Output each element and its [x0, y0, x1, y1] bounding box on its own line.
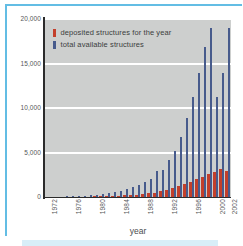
x-axis-title: year — [45, 226, 231, 236]
legend-label-deposited: deposited structures for the year — [61, 28, 172, 37]
bar-total-available — [210, 28, 212, 197]
bar-total-available — [138, 185, 140, 197]
bar-total-available — [174, 151, 176, 197]
bar-total-available — [222, 73, 224, 197]
bar-total-available — [168, 160, 170, 197]
bar-deposited-this-year — [165, 190, 167, 197]
chart-legend: deposited structures for the year total … — [53, 27, 203, 51]
y-axis-tick-label: 15,000 — [1, 60, 41, 67]
bar-deposited-this-year — [219, 169, 221, 197]
x-axis-tick-label: 2002 — [231, 199, 238, 214]
bar-deposited-this-year — [225, 171, 227, 197]
bar-total-available — [132, 187, 134, 197]
bar-total-available — [180, 137, 182, 197]
x-axis-tick-label: 1972 — [51, 199, 58, 214]
x-axis-tick-labels: 197219761980198419881992199620002002 — [45, 199, 231, 229]
x-axis-tick-label: 1992 — [171, 199, 178, 214]
bar-group — [225, 19, 231, 197]
bar-total-available — [186, 118, 188, 197]
x-axis-tick-label: 1996 — [195, 199, 202, 214]
bar-total-available — [198, 73, 200, 197]
bar-deposited-this-year — [195, 179, 197, 197]
x-axis-tick-label: 1988 — [147, 199, 154, 214]
x-axis-tick-label: 1984 — [123, 199, 130, 214]
bar-deposited-this-year — [201, 177, 203, 197]
bar-total-available — [228, 28, 230, 197]
bar-deposited-this-year — [171, 188, 173, 197]
bar-total-available — [204, 47, 206, 197]
y-axis-tick-label: 20,000 — [1, 15, 41, 22]
bar-deposited-this-year — [189, 182, 191, 197]
bar-deposited-this-year — [207, 174, 209, 197]
bar-deposited-this-year — [183, 184, 185, 197]
x-axis-tick-label: 2000 — [219, 199, 226, 214]
bar-total-available — [126, 189, 128, 197]
bar-deposited-this-year — [177, 186, 179, 197]
bar-total-available — [192, 97, 194, 197]
x-axis-tick-label: 1980 — [99, 199, 106, 214]
figure-frame: 05,00010,00015,00020,000 197219761980198… — [0, 0, 243, 246]
legend-item-deposited: deposited structures for the year — [53, 27, 203, 38]
bar-deposited-this-year — [213, 172, 215, 197]
y-axis-tick-labels: 05,00010,00015,00020,000 — [0, 0, 41, 246]
legend-item-total: total available structures — [53, 39, 203, 50]
x-axis-line — [43, 197, 231, 198]
y-axis-tick-label: 0 — [1, 193, 41, 200]
y-axis-tick-label: 5,000 — [1, 149, 41, 156]
y-axis-line — [43, 17, 45, 199]
bar-total-available — [150, 179, 152, 197]
legend-label-total: total available structures — [61, 40, 144, 49]
legend-swatch-total-icon — [53, 41, 56, 49]
bar-total-available — [156, 171, 158, 197]
bar-chart: 05,00010,00015,00020,000 197219761980198… — [0, 0, 243, 246]
x-axis-tick-label: 1976 — [75, 199, 82, 214]
y-axis-tick-label: 10,000 — [1, 104, 41, 111]
bar-total-available — [144, 182, 146, 197]
bar-total-available — [162, 170, 164, 197]
bar-total-available — [216, 97, 218, 197]
legend-swatch-deposited-icon — [53, 29, 56, 37]
